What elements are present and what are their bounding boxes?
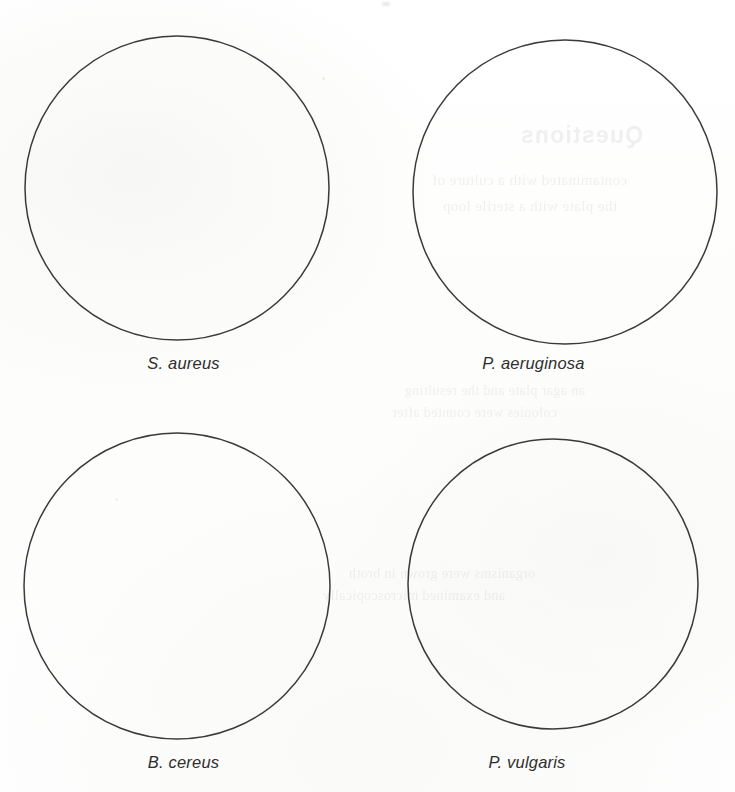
circle-outline <box>25 36 329 340</box>
circle-outline <box>408 439 698 729</box>
panel-s-aureus: S. aureus <box>0 0 367 396</box>
panel-p-aeruginosa: P. aeruginosa <box>367 0 735 396</box>
species-label-b-cereus: B. cereus <box>0 753 367 772</box>
colony-circle-p-vulgaris <box>408 430 702 742</box>
colony-circle-p-aeruginosa <box>408 38 724 350</box>
panel-b-cereus: B. cereus <box>0 396 367 792</box>
circle-outline <box>24 433 330 739</box>
colony-circle-b-cereus <box>24 430 334 744</box>
species-label-p-vulgaris: P. vulgaris <box>367 753 687 772</box>
species-label-p-aeruginosa: P. aeruginosa <box>367 354 700 373</box>
panel-p-vulgaris: P. vulgaris <box>367 396 735 792</box>
species-label-s-aureus: S. aureus <box>0 354 367 373</box>
figure-grid: S. aureus P. aeruginosa B. cereus <box>0 0 735 792</box>
colony-circle-s-aureus <box>24 34 334 344</box>
circle-outline <box>413 40 717 344</box>
scanned-page: Questionscontaminated with a culture oft… <box>0 0 735 792</box>
